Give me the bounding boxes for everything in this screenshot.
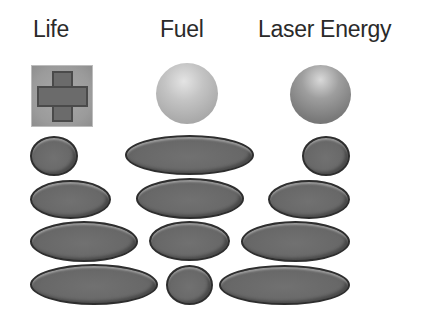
fuel-bar-1 (125, 135, 254, 175)
medical-cross-icon (31, 65, 93, 127)
life-bar-3 (30, 221, 138, 262)
fuel-label: Fuel (160, 16, 204, 43)
fuel-bar-3 (149, 221, 230, 261)
laser-bar-2 (268, 180, 350, 219)
life-bar-2 (30, 180, 111, 219)
life-label: Life (33, 16, 69, 43)
laser-bar-3 (241, 221, 350, 262)
life-bar-4 (30, 264, 158, 305)
fuel-sphere-icon (156, 63, 218, 124)
laser-bar-1 (302, 136, 350, 176)
energy-sphere-icon (290, 65, 351, 124)
laser-energy-label: Laser Energy (258, 16, 391, 43)
fuel-bar-4 (166, 265, 213, 305)
laser-bar-4 (219, 265, 350, 305)
fuel-bar-2 (136, 178, 244, 219)
life-bar-1 (30, 136, 78, 176)
